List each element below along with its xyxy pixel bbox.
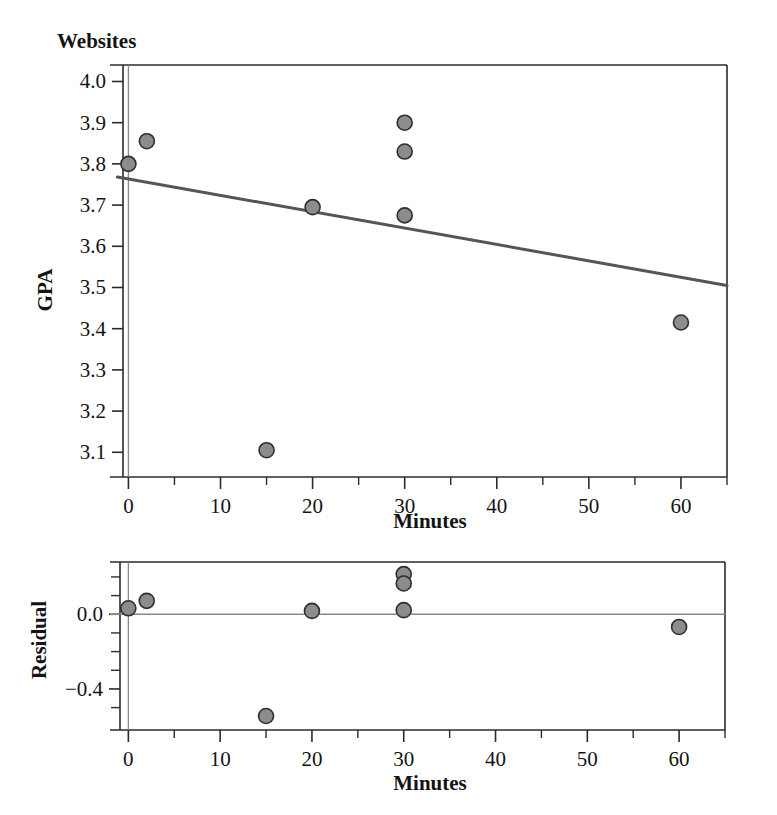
- data-point: [259, 709, 274, 724]
- y-tick-label: 3.3: [80, 358, 106, 382]
- x-tick-label: 40: [485, 747, 506, 771]
- y-tick-label: 3.5: [80, 275, 106, 299]
- gpa-regression-line: [117, 177, 727, 285]
- y-tick-label: 3.4: [80, 317, 107, 341]
- data-point: [397, 208, 412, 223]
- data-point: [397, 115, 412, 130]
- y-tick-label: 3.8: [80, 152, 106, 176]
- y-tick-label: 3.6: [80, 234, 106, 258]
- gpa-x-axis-ticks: [128, 477, 727, 489]
- data-point: [305, 200, 320, 215]
- data-point: [121, 601, 136, 616]
- gpa-y-axis-title: GPA: [33, 268, 57, 312]
- residual-y-tick-labels: 0.0−0.4: [65, 602, 104, 701]
- x-tick-label: 10: [210, 747, 231, 771]
- x-tick-label: 50: [577, 747, 598, 771]
- y-tick-label: 3.9: [80, 111, 106, 135]
- residual-x-axis-title: Minutes: [393, 771, 467, 795]
- x-tick-label: 20: [301, 747, 322, 771]
- y-tick-label: 3.2: [80, 399, 106, 423]
- gpa-x-axis-title: Minutes: [393, 509, 467, 533]
- residual-x-tick-labels: 0102030405060: [123, 747, 689, 771]
- y-tick-label: −0.4: [65, 677, 104, 701]
- data-point: [396, 603, 411, 618]
- gpa-plot-frame: [110, 65, 727, 477]
- y-tick-label: 3.1: [80, 440, 106, 464]
- y-tick-label: 3.7: [80, 193, 106, 217]
- data-point: [139, 134, 154, 149]
- x-tick-label: 0: [123, 494, 134, 518]
- gpa-data-points: [121, 115, 689, 458]
- chart-canvas: Websites 3.13.23.33.43.53.63.73.83.94.0 …: [0, 0, 777, 815]
- data-point: [304, 603, 319, 618]
- gpa-y-axis-ticks: [112, 81, 123, 452]
- regression-line: [117, 177, 727, 285]
- panel-gpa-scatter: Websites 3.13.23.33.43.53.63.73.83.94.0 …: [33, 29, 727, 533]
- residual-y-axis-ticks: [109, 577, 120, 708]
- residual-x-axis-ticks: [128, 730, 725, 742]
- data-point: [673, 315, 688, 330]
- panel-residual-scatter: 0.0−0.4 0102030405060 Residual Minutes: [27, 562, 725, 795]
- data-point: [121, 156, 136, 171]
- panel-title: Websites: [57, 29, 136, 53]
- x-tick-label: 60: [670, 494, 691, 518]
- data-point: [259, 443, 274, 458]
- residual-y-axis-title: Residual: [27, 601, 51, 679]
- figure-root: Websites 3.13.23.33.43.53.63.73.83.94.0 …: [0, 0, 777, 815]
- x-tick-label: 50: [578, 494, 599, 518]
- y-tick-label: 4.0: [80, 69, 106, 93]
- data-point: [139, 593, 154, 608]
- x-tick-label: 20: [302, 494, 323, 518]
- x-tick-label: 0: [123, 747, 134, 771]
- x-tick-label: 10: [210, 494, 231, 518]
- residual-data-points: [121, 567, 687, 724]
- x-tick-label: 40: [486, 494, 507, 518]
- gpa-y-tick-labels: 3.13.23.33.43.53.63.73.83.94.0: [80, 69, 107, 464]
- data-point: [672, 619, 687, 634]
- data-point: [396, 576, 411, 591]
- residual-plot-frame: [110, 562, 725, 730]
- data-point: [397, 144, 412, 159]
- x-tick-label: 30: [393, 747, 414, 771]
- x-tick-label: 60: [669, 747, 690, 771]
- y-tick-label: 0.0: [77, 602, 103, 626]
